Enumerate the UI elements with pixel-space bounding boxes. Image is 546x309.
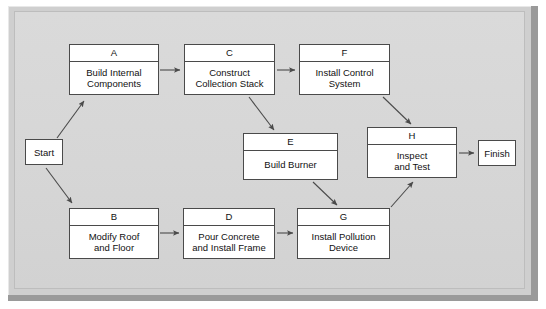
node-a-code: A: [70, 45, 158, 62]
node-e-label: Build Burner: [244, 151, 337, 179]
node-h-label: Inspect and Test: [368, 145, 456, 177]
node-a[interactable]: A Build Internal Components: [69, 44, 159, 95]
node-a-label: Build Internal Components: [70, 62, 158, 94]
node-b-label: Modify Roof and Floor: [70, 226, 158, 258]
node-e[interactable]: E Build Burner: [243, 133, 338, 180]
node-f-label: Install Control System: [300, 62, 389, 94]
node-start-label: Start: [34, 147, 54, 158]
node-h-code: H: [368, 128, 456, 145]
node-c-label: Construct Collection Stack: [185, 62, 274, 94]
node-g[interactable]: G Install Pollution Device: [297, 208, 390, 259]
node-g-label: Install Pollution Device: [298, 226, 389, 258]
node-b-code: B: [70, 209, 158, 226]
node-f-code: F: [300, 45, 389, 62]
node-g-code: G: [298, 209, 389, 226]
node-d[interactable]: D Pour Concrete and Install Frame: [183, 208, 275, 259]
node-c-code: C: [185, 45, 274, 62]
diagram-canvas: Start Finish A Build Internal Components…: [0, 0, 546, 309]
node-c[interactable]: C Construct Collection Stack: [184, 44, 275, 95]
node-h[interactable]: H Inspect and Test: [367, 127, 457, 178]
node-finish-label: Finish: [484, 148, 509, 159]
node-f[interactable]: F Install Control System: [299, 44, 390, 95]
node-d-label: Pour Concrete and Install Frame: [184, 226, 274, 258]
node-finish[interactable]: Finish: [478, 140, 516, 166]
node-b[interactable]: B Modify Roof and Floor: [69, 208, 159, 259]
node-e-code: E: [244, 134, 337, 151]
node-d-code: D: [184, 209, 274, 226]
node-start[interactable]: Start: [25, 139, 63, 165]
